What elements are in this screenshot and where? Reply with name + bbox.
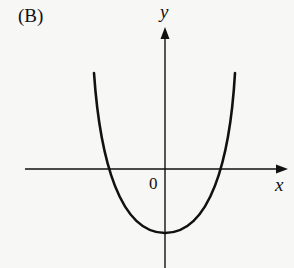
x-axis [25, 165, 288, 174]
option-label: (B) [18, 6, 43, 25]
origin-label: 0 [149, 175, 158, 192]
x-axis-arrow-icon [276, 165, 288, 174]
graph-canvas [0, 0, 294, 268]
y-axis-arrow-icon [161, 27, 170, 39]
y-axis-label: y [160, 2, 168, 21]
x-axis-label: x [275, 175, 283, 194]
graph-figure: (B) y 0 x [0, 0, 294, 268]
